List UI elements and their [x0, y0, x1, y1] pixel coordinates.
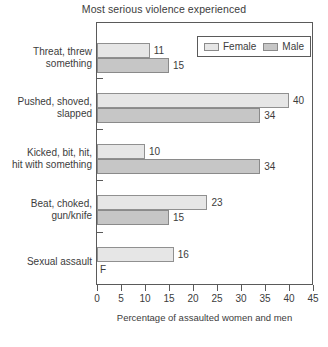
bar-female — [97, 43, 150, 58]
x-axis-tick-labels: 051015202530354045 — [0, 293, 328, 307]
x-axis-tick — [289, 285, 290, 291]
x-axis-tick — [265, 285, 266, 291]
category-label-line: Sexual assault — [0, 256, 92, 269]
x-axis-tick-label: 40 — [283, 293, 294, 304]
bar-value-female: 16 — [178, 247, 189, 262]
category-label-line: Kicked, bit, hit, — [0, 147, 92, 160]
legend-item-male: Male — [263, 41, 304, 52]
bar-female — [97, 195, 207, 210]
x-axis-tick-label: 10 — [139, 293, 150, 304]
category-label: Kicked, bit, hit,hit with something — [0, 147, 92, 172]
x-axis-tick-label: 45 — [307, 293, 318, 304]
x-axis-tick-label: 35 — [259, 293, 270, 304]
category-label-line: slapped — [0, 108, 92, 121]
bar-female — [97, 247, 174, 262]
x-axis-ticks — [96, 285, 313, 291]
bar-value-female: 23 — [211, 195, 222, 210]
legend-label-female: Female — [223, 41, 256, 52]
category-label-line: Threat, threw — [0, 46, 92, 59]
legend-label-male: Male — [282, 41, 304, 52]
bar-female — [97, 144, 145, 159]
x-axis-tick — [97, 285, 98, 291]
bar-value-female: 11 — [154, 43, 164, 58]
x-axis-title: Percentage of assaulted women and men — [96, 312, 313, 323]
category-label: Threat, threwsomething — [0, 46, 92, 71]
x-axis-tick-label: 30 — [235, 293, 246, 304]
x-axis-tick — [313, 285, 314, 291]
bar-value-male: 15 — [173, 210, 184, 225]
x-axis-tick-label: 15 — [163, 293, 174, 304]
category-separator-tick — [97, 78, 103, 79]
x-axis-tick — [241, 285, 242, 291]
x-axis-tick — [169, 285, 170, 291]
legend-item-female: Female — [204, 41, 256, 52]
x-axis-tick-label: 5 — [118, 293, 124, 304]
bar-male — [97, 108, 260, 123]
category-label: Beat, choked,gun/knife — [0, 198, 92, 223]
category-separator-tick — [97, 180, 103, 181]
bars-layer: 111540341034231516F — [97, 23, 313, 284]
category-separator-tick — [97, 129, 103, 130]
x-axis-tick-label: 0 — [94, 293, 100, 304]
bar-male — [97, 210, 169, 225]
x-axis-tick — [121, 285, 122, 291]
x-axis-tick — [193, 285, 194, 291]
male-swatch-icon — [263, 43, 278, 51]
category-label: Sexual assault — [0, 256, 92, 269]
y-axis-category-labels: Threat, threwsomethingPushed, shoved,sla… — [0, 22, 92, 285]
category-label-line: something — [0, 58, 92, 71]
female-swatch-icon — [204, 43, 219, 51]
category-label-line: hit with something — [0, 159, 92, 172]
x-axis-tick — [217, 285, 218, 291]
bar-value-male: 15 — [173, 58, 184, 73]
bar-value-female: 10 — [149, 144, 160, 159]
bar-male — [97, 159, 260, 174]
bar-value-female: 40 — [293, 93, 304, 108]
x-axis-tick-label: 25 — [211, 293, 222, 304]
suppressed-data-flag-male: F — [100, 262, 106, 277]
category-label-line: Pushed, shoved, — [0, 96, 92, 109]
category-label-line: Beat, choked, — [0, 198, 92, 211]
category-label-line: gun/knife — [0, 210, 92, 223]
chart-title: Most serious violence experienced — [0, 3, 328, 15]
chart-legend: Female Male — [197, 36, 311, 57]
x-axis-tick — [145, 285, 146, 291]
category-label: Pushed, shoved,slapped — [0, 96, 92, 121]
bar-chart: Most serious violence experienced Threat… — [0, 0, 328, 347]
bar-value-male: 34 — [264, 108, 275, 123]
bar-male — [97, 58, 169, 73]
bar-value-male: 34 — [264, 159, 275, 174]
category-separator-tick — [97, 232, 103, 233]
x-axis-tick-label: 20 — [187, 293, 198, 304]
bar-female — [97, 93, 289, 108]
